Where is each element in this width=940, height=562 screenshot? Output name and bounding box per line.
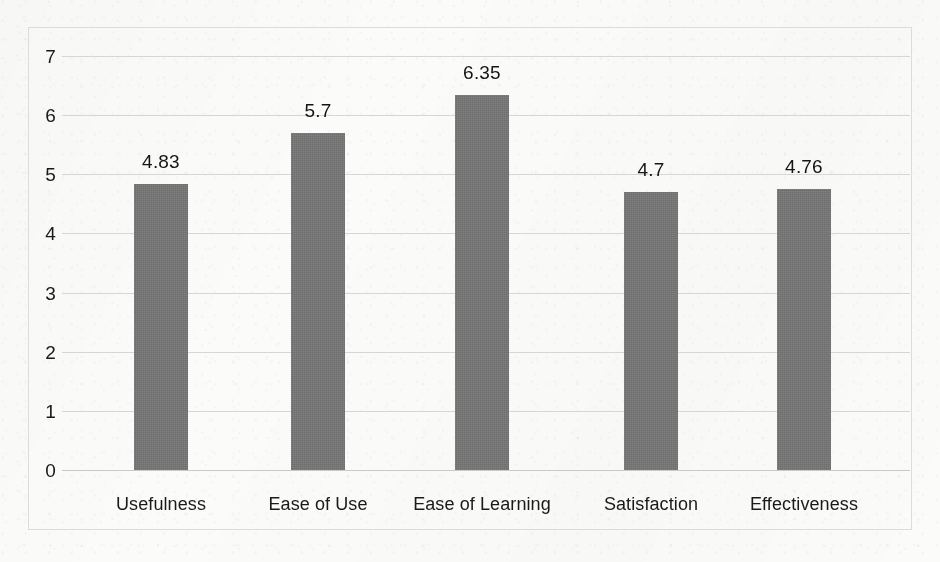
x-axis-label-satisfaction: Satisfaction — [571, 495, 731, 513]
chart-plot-area: 7 6 5 4 3 2 1 0 4.83 5.7 6.35 4.7 4.76 U… — [0, 0, 940, 562]
y-axis-tick-2: 2 — [30, 343, 56, 362]
bar-value-usefulness: 4.83 — [111, 152, 211, 171]
bar-satisfaction[interactable] — [624, 192, 678, 470]
axis-baseline-0 — [62, 470, 910, 471]
y-axis-tick-1: 1 — [30, 402, 56, 421]
y-axis-tick-5: 5 — [30, 165, 56, 184]
y-axis-tick-6: 6 — [30, 106, 56, 125]
bar-value-satisfaction: 4.7 — [601, 160, 701, 179]
y-axis-tick-3: 3 — [30, 284, 56, 303]
bar-usefulness[interactable] — [134, 184, 188, 470]
x-axis-label-effectiveness: Effectiveness — [724, 495, 884, 513]
bar-effectiveness[interactable] — [777, 189, 831, 470]
y-axis-tick-7: 7 — [30, 47, 56, 66]
x-axis-label-usefulness: Usefulness — [81, 495, 241, 513]
y-axis-tick-4: 4 — [30, 224, 56, 243]
gridline-7 — [62, 56, 910, 57]
chart-page: 7 6 5 4 3 2 1 0 4.83 5.7 6.35 4.7 4.76 U… — [0, 0, 940, 562]
bar-value-ease-of-use: 5.7 — [268, 101, 368, 120]
x-axis-label-ease-of-learning: Ease of Learning — [397, 495, 567, 513]
bar-ease-of-learning[interactable] — [455, 95, 509, 470]
x-axis-label-ease-of-use: Ease of Use — [238, 495, 398, 513]
bar-ease-of-use[interactable] — [291, 133, 345, 470]
y-axis-tick-0: 0 — [30, 461, 56, 480]
bar-value-ease-of-learning: 6.35 — [432, 63, 532, 82]
bar-value-effectiveness: 4.76 — [754, 157, 854, 176]
